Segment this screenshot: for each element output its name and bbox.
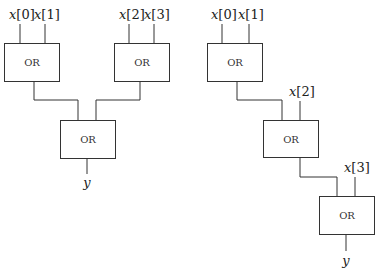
chain-or-gate-1-label: OR: [227, 57, 243, 68]
chain-or-gate-2-label: OR: [283, 134, 299, 145]
chain-wire-gate1-to-gate2: [237, 81, 282, 120]
tree-output-y-label: y: [82, 175, 91, 190]
chain-input-x1-label: x[1]: [238, 7, 264, 22]
chain-circuit: x[0] x[1] OR x[2] OR x[3] OR y: [208, 7, 375, 268]
chain-input-x2-label: x[2]: [289, 84, 315, 99]
tree-input-x3-label: x[3]: [144, 7, 170, 22]
chain-or-gate-3-label: OR: [339, 210, 355, 221]
tree-input-x1-label: x[1]: [34, 7, 60, 22]
or-gate-1-label: OR: [24, 57, 40, 68]
tree-input-x2-label: x[2]: [119, 7, 145, 22]
or-circuits-diagram: x[0] x[1] x[2] x[3] OR OR OR y x[0] x[1]: [0, 0, 379, 275]
chain-input-x0-label: x[0]: [211, 7, 237, 22]
chain-output-y-label: y: [341, 253, 350, 268]
or-gate-2-label: OR: [134, 57, 150, 68]
wire-gate2-to-gate3: [96, 81, 140, 120]
tree-circuit: x[0] x[1] x[2] x[3] OR OR OR y: [5, 7, 170, 190]
tree-input-x0-label: x[0]: [9, 7, 35, 22]
chain-input-x3-label: x[3]: [344, 160, 370, 175]
or-gate-3-label: OR: [80, 134, 96, 145]
wire-gate1-to-gate3: [34, 81, 78, 120]
chain-wire-gate2-to-gate3: [300, 157, 337, 196]
